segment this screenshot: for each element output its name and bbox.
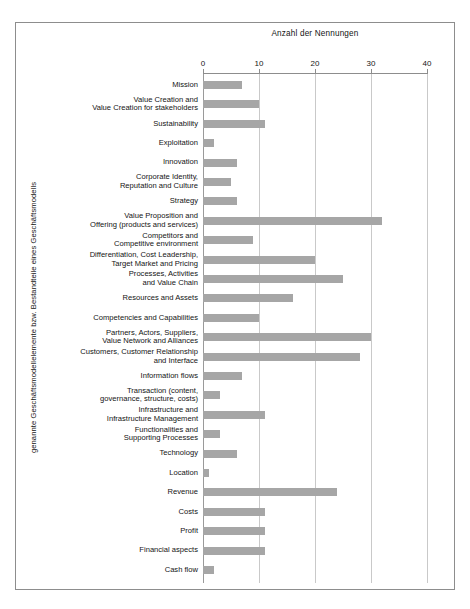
bar-row: Information flows bbox=[203, 367, 427, 385]
bar bbox=[203, 236, 253, 244]
bar-category-label: Competencies and Capabilities bbox=[93, 309, 198, 327]
bar-category-label: Cash flow bbox=[165, 561, 198, 579]
bar-row: Partners, Actors, Suppliers,Value Networ… bbox=[203, 328, 427, 346]
bar-category-label: Infrastructure andInfrastructure Managem… bbox=[107, 406, 198, 424]
bar bbox=[203, 217, 382, 225]
bar-category-label: Exploitation bbox=[159, 134, 198, 152]
bar bbox=[203, 139, 214, 147]
y-axis-title: genannte Geschäftsmodellelemente bzw. Be… bbox=[29, 168, 38, 468]
bar-category-label: Partners, Actors, Suppliers,Value Networ… bbox=[102, 328, 198, 346]
bar-category-label: Differentiation, Cost Leadership,Target … bbox=[90, 251, 198, 269]
bar-row: Resources and Assets bbox=[203, 289, 427, 307]
bar bbox=[203, 391, 220, 399]
bar bbox=[203, 314, 259, 322]
bar-category-label: Profit bbox=[180, 522, 198, 540]
bar-category-label: Strategy bbox=[170, 192, 198, 210]
bar-category-label: Location bbox=[169, 464, 198, 482]
bar bbox=[203, 256, 315, 264]
bar-category-label: Competitors andCompetitive environment bbox=[114, 231, 198, 249]
bar-category-label: Technology bbox=[160, 445, 198, 463]
bar-row: Strategy bbox=[203, 192, 427, 210]
bar-row: Exploitation bbox=[203, 134, 427, 152]
bar-row: Value Creation andValue Creation for sta… bbox=[203, 95, 427, 113]
bar-category-label: Corporate Identity,Reputation and Cultur… bbox=[120, 173, 198, 191]
bar-row: Corporate Identity,Reputation and Cultur… bbox=[203, 173, 427, 191]
bar-row: Costs bbox=[203, 503, 427, 521]
bar-row: Mission bbox=[203, 76, 427, 94]
bar-row: Transaction (content,governance, structu… bbox=[203, 386, 427, 404]
bar-row: Location bbox=[203, 464, 427, 482]
x-tick-label: 10 bbox=[255, 59, 264, 68]
bar-row: Innovation bbox=[203, 154, 427, 172]
bar-row: Customers, Customer Relationshipand Inte… bbox=[203, 348, 427, 366]
bar bbox=[203, 100, 259, 108]
bar-category-label: Processes, Activitiesand Value Chain bbox=[129, 270, 198, 288]
bar-category-label: Customers, Customer Relationshipand Inte… bbox=[80, 348, 198, 366]
x-tick-label: 30 bbox=[367, 59, 376, 68]
bar-row: Profit bbox=[203, 522, 427, 540]
bar bbox=[203, 294, 293, 302]
bar bbox=[203, 566, 214, 574]
bar bbox=[203, 178, 231, 186]
bar bbox=[203, 372, 242, 380]
bar-category-label: Costs bbox=[179, 503, 198, 521]
bar-row: Value Proposition andOffering (products … bbox=[203, 212, 427, 230]
x-tick-label: 20 bbox=[311, 59, 320, 68]
bar-category-label: Transaction (content,governance, structu… bbox=[100, 386, 198, 404]
bar bbox=[203, 81, 242, 89]
bar-category-label: Innovation bbox=[163, 154, 198, 172]
x-tick-label: 0 bbox=[201, 59, 205, 68]
bar-row: Revenue bbox=[203, 483, 427, 501]
bar-row: Financial aspects bbox=[203, 542, 427, 560]
bar-rows: MissionValue Creation andValue Creation … bbox=[203, 74, 427, 583]
bar-category-label: Information flows bbox=[141, 367, 198, 385]
bar bbox=[203, 430, 220, 438]
bar-row: Competencies and Capabilities bbox=[203, 309, 427, 327]
bar bbox=[203, 275, 343, 283]
bar-row: Processes, Activitiesand Value Chain bbox=[203, 270, 427, 288]
bar bbox=[203, 508, 265, 516]
x-axis-title: Anzahl der Nennungen bbox=[203, 29, 427, 38]
bar-row: Differentiation, Cost Leadership,Target … bbox=[203, 251, 427, 269]
bar-row: Competitors andCompetitive environment bbox=[203, 231, 427, 249]
bar-row: Cash flow bbox=[203, 561, 427, 579]
bar-category-label: Value Creation andValue Creation for sta… bbox=[92, 95, 198, 113]
chart-figure: Anzahl der Nennungen genannte Geschäftsm… bbox=[15, 22, 455, 590]
bar-row: Sustainability bbox=[203, 115, 427, 133]
x-tick-label: 40 bbox=[423, 59, 432, 68]
bar bbox=[203, 527, 265, 535]
bar bbox=[203, 159, 237, 167]
bar bbox=[203, 469, 209, 477]
bar-category-label: Sustainability bbox=[153, 115, 198, 133]
bar-row: Infrastructure andInfrastructure Managem… bbox=[203, 406, 427, 424]
bar-category-label: Revenue bbox=[168, 483, 198, 501]
bar bbox=[203, 120, 265, 128]
bar bbox=[203, 411, 265, 419]
plot-area: 010203040 MissionValue Creation andValue… bbox=[203, 59, 427, 583]
bar-category-label: Financial aspects bbox=[139, 542, 198, 560]
bar-category-label: Functionalities andSupporting Processes bbox=[124, 425, 198, 443]
bar-row: Functionalities andSupporting Processes bbox=[203, 425, 427, 443]
bar bbox=[203, 547, 265, 555]
bar bbox=[203, 488, 337, 496]
bar-category-label: Resources and Assets bbox=[122, 289, 198, 307]
bar-category-label: Mission bbox=[172, 76, 198, 94]
bar-category-label: Value Proposition andOffering (products … bbox=[90, 212, 198, 230]
gridline bbox=[427, 74, 428, 583]
bar bbox=[203, 197, 237, 205]
bar-row: Technology bbox=[203, 445, 427, 463]
bar bbox=[203, 353, 360, 361]
bar bbox=[203, 450, 237, 458]
bar bbox=[203, 333, 371, 341]
